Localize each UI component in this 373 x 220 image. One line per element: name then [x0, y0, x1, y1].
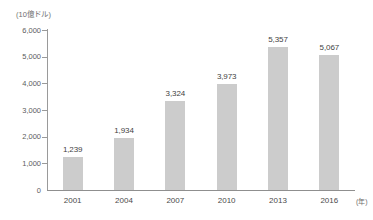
bar-value-label: 3,324: [166, 89, 186, 98]
y-axis-tick-label: 6,000: [0, 26, 41, 35]
x-axis-tick-label: 2010: [207, 196, 247, 205]
bar: [165, 101, 185, 190]
bar: [268, 47, 288, 190]
y-axis-unit-label: (10億ドル): [16, 8, 51, 19]
bar: [63, 157, 83, 190]
y-axis-tick-label: 3,000: [0, 106, 41, 115]
bar-column: 3,973: [217, 30, 237, 190]
bar-column: 1,934: [114, 30, 134, 190]
bar-value-label: 1,934: [114, 126, 134, 135]
bar-value-label: 3,973: [217, 72, 237, 81]
bars-group: 1,2391,9343,3243,9735,3575,067: [47, 30, 355, 190]
bar-column: 1,239: [63, 30, 83, 190]
y-axis-tick-label: 4,000: [0, 79, 41, 88]
x-axis-tick-label: 2007: [155, 196, 195, 205]
y-axis-tick-label: 0: [0, 186, 41, 195]
y-axis-tick-label: 2,000: [0, 132, 41, 141]
bar: [217, 84, 237, 190]
y-axis-tick-label: 1,000: [0, 159, 41, 168]
bar-value-label: 5,357: [268, 35, 288, 44]
bar: [114, 138, 134, 190]
y-axis-tick-label: 5,000: [0, 52, 41, 61]
bar-value-label: 1,239: [63, 145, 83, 154]
x-axis-tick-label: 2016: [309, 196, 349, 205]
bar-chart: (10億ドル) 01,0002,0003,0004,0005,0006,000 …: [0, 0, 373, 220]
x-axis-unit-label: (年): [356, 196, 368, 206]
bar-value-label: 5,067: [320, 43, 340, 52]
bar-column: 5,067: [319, 30, 339, 190]
x-axis-tick-label: 2004: [104, 196, 144, 205]
x-axis-line: [47, 190, 355, 191]
x-axis-tick-label: 2001: [53, 196, 93, 205]
bar-column: 5,357: [268, 30, 288, 190]
x-axis-tick-label: 2013: [258, 196, 298, 205]
bar: [319, 55, 339, 190]
bar-column: 3,324: [165, 30, 185, 190]
